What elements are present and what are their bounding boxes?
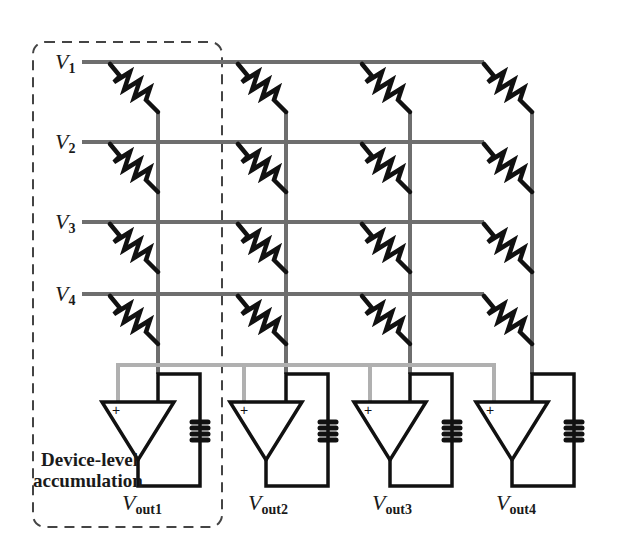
memristor-icon: [238, 64, 286, 112]
opamp-4: [476, 374, 582, 486]
input-label-v1: V1: [55, 49, 75, 76]
memristor-icon: [238, 144, 286, 192]
annotation-line-1: Device-level: [41, 449, 138, 470]
memristor-icon: [110, 224, 158, 272]
reference-bus: [118, 365, 494, 402]
memristor-icon: [110, 296, 158, 344]
output-label-vout3: Vout3: [372, 490, 412, 517]
memristor-icon: [484, 224, 532, 272]
memristor-icon: [484, 144, 532, 192]
memristor-icon: [238, 224, 286, 272]
crossbar-diagram: + + + + V1 V2 V3 V4 Vout1 Vout2 Vout3 Vo…: [0, 0, 620, 555]
output-label-vout4: Vout4: [496, 490, 536, 517]
input-label-v4: V4: [55, 281, 75, 308]
input-labels: V1 V2 V3 V4: [55, 49, 75, 308]
row-lines: [82, 62, 484, 294]
input-label-v3: V3: [55, 209, 75, 236]
plus-pin-label: +: [364, 402, 372, 418]
output-label-vout2: Vout2: [248, 490, 288, 517]
plus-pin-label: +: [486, 402, 494, 418]
memristor-icon: [362, 144, 410, 192]
memristor-icon: [362, 296, 410, 344]
memristor-array: [110, 64, 532, 344]
column-lines: [158, 112, 532, 374]
input-label-v2: V2: [55, 129, 75, 156]
output-labels: Vout1 Vout2 Vout3 Vout4: [122, 490, 536, 517]
annotation-line-2: accumulation: [33, 470, 143, 491]
memristor-icon: [362, 64, 410, 112]
plus-pin-label: +: [240, 402, 248, 418]
opamp-icon: [476, 374, 582, 486]
memristor-icon: [238, 296, 286, 344]
memristor-icon: [362, 224, 410, 272]
memristor-icon: [110, 144, 158, 192]
output-label-vout1: Vout1: [122, 490, 162, 517]
memristor-icon: [484, 64, 532, 112]
memristor-icon: [110, 64, 158, 112]
plus-pin-label: +: [112, 402, 120, 418]
memristor-icon: [484, 296, 532, 344]
